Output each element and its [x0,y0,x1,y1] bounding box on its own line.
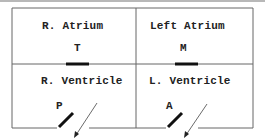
pulmonary-valve [59,113,73,127]
aortic-letter: A [166,100,173,112]
aortic-outflow-arrow [186,104,207,135]
left-atrium-label: Left Atrium [150,20,225,32]
right-atrium-label: R. Atrium [42,20,103,32]
mitral-letter: M [180,42,187,54]
heart-diagram [0,0,265,140]
right-ventricle-label: R. Ventricle [41,75,123,87]
left-ventricle-label: L. Ventricle [149,75,231,87]
aortic-valve [168,113,182,127]
tricuspid-letter: T [74,42,81,54]
pulmonary-outflow-arrow [76,103,97,135]
pulmonary-letter: P [56,100,63,112]
